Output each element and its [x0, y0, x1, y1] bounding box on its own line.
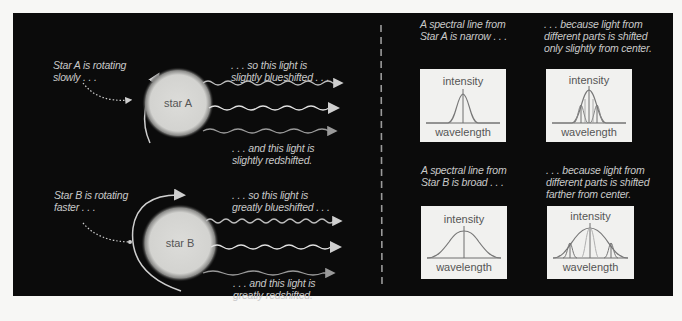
star-b-pointer-icon [83, 223, 129, 242]
star-b-redshift-caption: . . . and this light is greatly redshift… [233, 277, 315, 301]
star-a-label: star A [153, 97, 203, 109]
star-b-label: star B [155, 237, 205, 249]
graph-star-b-broad: intensity wavelength [421, 206, 507, 279]
star-b-center-wave-icon [211, 245, 339, 249]
row-a-right-caption: . . . because light from different parts… [544, 18, 652, 54]
graph-b-composite-y-label: intensity [547, 210, 634, 222]
star-a-redshift-wave-icon [203, 129, 335, 133]
star-b-rotation-caption: Star B is rotating faster . . . [54, 189, 128, 213]
graph-star-a-narrow: intensity wavelength [420, 69, 506, 142]
diagram-panel: star A star B Star A is rotating slowly … [13, 13, 673, 296]
graph-a-narrow-x-label: wavelength [420, 126, 506, 138]
row-b-left-caption: A spectral line from Star B is broad . .… [421, 164, 506, 188]
star-a-blueshift-caption: . . . so this light is slightly blueshif… [231, 59, 329, 83]
star-a-center-wave-icon [209, 106, 337, 110]
row-a-left-caption: A spectral line from Star A is narrow . … [420, 18, 507, 42]
row-b-right-caption: . . . because light from different parts… [546, 164, 649, 200]
star-a-redshift-caption: . . . and this light is slightly redshif… [232, 142, 314, 166]
star-b-blueshift-caption: . . . so this light is greatly blueshift… [232, 189, 330, 213]
graph-a-narrow-y-label: intensity [420, 75, 506, 87]
graph-b-broad-x-label: wavelength [421, 261, 507, 273]
star-a-rotation-caption: Star A is rotating slowly . . . [53, 59, 126, 83]
graph-a-composite-y-label: intensity [546, 74, 632, 86]
graph-b-composite-x-label: wavelength [547, 261, 634, 273]
graph-b-broad-y-label: intensity [421, 213, 507, 225]
graph-a-composite-x-label: wavelength [546, 126, 632, 138]
section-divider [381, 25, 382, 288]
graph-star-a-composite: intensity wavelength [546, 69, 632, 142]
star-a-pointer-icon [83, 83, 130, 100]
graph-star-b-composite: intensity wavelength [547, 206, 634, 279]
star-b-redshift-wave-icon [203, 271, 333, 275]
star-b-blueshift-wave-icon [206, 219, 340, 223]
